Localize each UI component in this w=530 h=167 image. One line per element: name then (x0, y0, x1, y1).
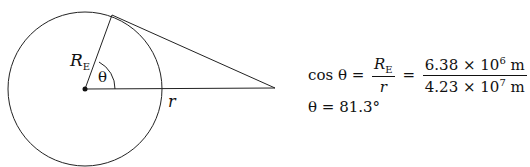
radius-label: RE (70, 50, 90, 72)
cos-theta-lhs: cos θ = (308, 66, 364, 84)
tangent-line (112, 15, 275, 88)
cosine-equation: cos θ = RE r = 6.38 × 106 m 4.23 × 107 m (308, 55, 530, 96)
angle-label: θ (98, 68, 107, 86)
frac2-denominator: 4.23 × 10 (425, 78, 500, 96)
frac1-numerator: R (374, 55, 385, 73)
frac2-denominator-unit: m (506, 78, 525, 96)
theta-result: θ = 81.3° (308, 98, 380, 116)
distance-line (85, 88, 275, 89)
center-dot (83, 87, 88, 92)
frac2-numerator-unit: m (506, 56, 525, 74)
frac1-denominator: r (372, 77, 395, 96)
ratio-fraction: RE r (372, 55, 395, 96)
radius-subscript: E (83, 61, 90, 72)
frac2-numerator: 6.38 × 10 (425, 56, 500, 74)
frac1-numerator-sub: E (385, 64, 392, 75)
radius-symbol: R (70, 50, 83, 70)
values-fraction: 6.38 × 106 m 4.23 × 107 m (423, 55, 527, 96)
equals-sign: = (402, 66, 415, 84)
distance-label: r (168, 92, 176, 111)
